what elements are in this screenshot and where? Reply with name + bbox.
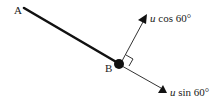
vector-u-cos-60-label: u cos 60° bbox=[150, 12, 191, 24]
vector-u-cos-60-shaft bbox=[122, 22, 143, 61]
diagram-canvas: A B u cos 60° u sin 60° bbox=[0, 0, 224, 101]
point-b-label: B bbox=[105, 62, 112, 74]
arrowhead-down-icon bbox=[158, 85, 167, 93]
rod-ab bbox=[24, 8, 118, 63]
vector-u-sin-60-shaft bbox=[122, 66, 161, 88]
vector-u-sin-60-label: u sin 60° bbox=[170, 86, 209, 98]
sin-text: sin 60° bbox=[176, 86, 210, 98]
point-b-dot bbox=[114, 59, 124, 69]
point-a-label: A bbox=[14, 4, 22, 16]
right-angle-marker-icon bbox=[126, 55, 133, 66]
cos-text: cos 60° bbox=[156, 12, 192, 24]
